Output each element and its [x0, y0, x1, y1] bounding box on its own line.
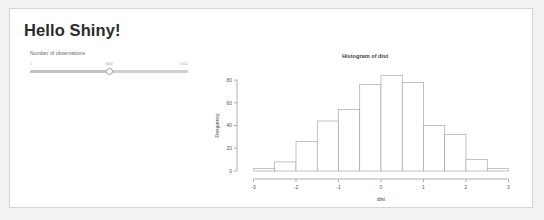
histogram-bar	[254, 169, 275, 171]
slider-handle[interactable]	[106, 68, 113, 75]
histogram-plot: -3-2-10123020406080distFrequency	[205, 53, 525, 205]
histogram-bar	[487, 169, 508, 171]
page-title: Hello Shiny!	[24, 21, 121, 40]
histogram-bar	[424, 126, 445, 171]
histogram-bar	[360, 85, 381, 171]
histogram-bar	[275, 162, 296, 171]
y-tick-label: 20	[226, 145, 232, 151]
observations-slider[interactable]: 1 1000 500	[30, 61, 188, 81]
x-tick-label: -1	[336, 184, 341, 190]
histogram-bar	[402, 82, 423, 171]
x-tick-label: 0	[380, 184, 383, 190]
slider-label: Number of observations	[30, 50, 85, 56]
x-tick-label: -2	[294, 184, 299, 190]
histogram-bar	[296, 141, 317, 171]
histogram-bars	[254, 76, 509, 171]
slider-max-label: 1000	[179, 61, 188, 66]
y-tick-label: 40	[226, 122, 232, 128]
histogram-bar	[339, 110, 360, 171]
histogram-bar	[466, 160, 487, 171]
shiny-app-card: Hello Shiny! Number of observations 1 10…	[9, 8, 533, 208]
y-axis-title: Frequency	[214, 113, 220, 138]
plot-panel: Histogram of dist -3-2-10123020406080dis…	[205, 53, 525, 205]
slider-min-label: 1	[30, 61, 32, 66]
histogram-bar	[317, 121, 338, 171]
slider-value-label: 500	[106, 61, 113, 66]
y-tick-label: 60	[226, 100, 232, 106]
x-axis-title: dist	[377, 196, 386, 202]
y-tick-label: 0	[229, 168, 232, 174]
histogram-bar	[381, 76, 402, 171]
slider-track-fill	[30, 70, 109, 73]
histogram-bar	[445, 135, 466, 171]
x-tick-label: 3	[507, 184, 510, 190]
x-tick-label: 2	[465, 184, 468, 190]
y-tick-label: 80	[226, 77, 232, 83]
x-tick-label: 1	[422, 184, 425, 190]
x-tick-label: -3	[251, 184, 256, 190]
sidebar-panel: Number of observations 1 1000 500	[24, 50, 199, 90]
